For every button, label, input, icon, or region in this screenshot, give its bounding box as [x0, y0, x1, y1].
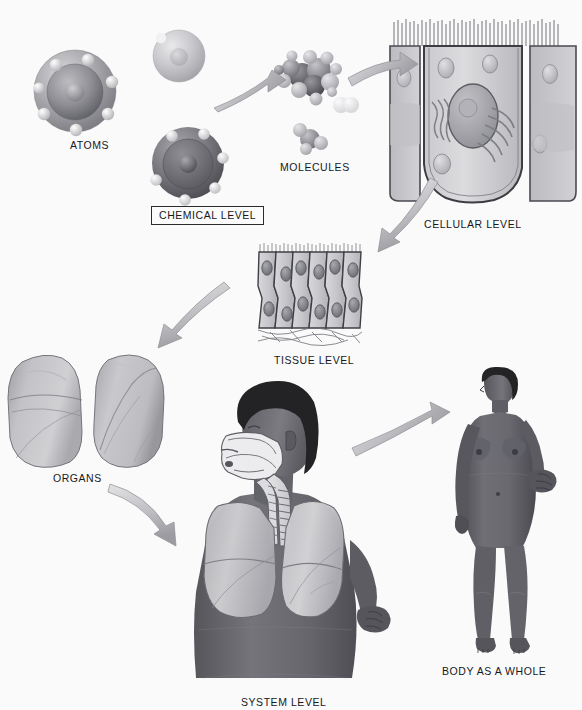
label-body-as-a-whole: BODY AS A WHOLE	[442, 665, 546, 677]
arrow-molecules-to-cellular	[348, 52, 418, 86]
arrow-organs-to-system	[108, 484, 176, 546]
label-cellular-level: CELLULAR LEVEL	[424, 218, 522, 230]
figure-canvas: ATOMS CHEMICAL LEVEL MOLECULES CELLULAR …	[0, 0, 582, 710]
label-organs: ORGANS	[53, 472, 102, 484]
label-tissue-level: TISSUE LEVEL	[274, 354, 354, 366]
label-system-level: SYSTEM LEVEL	[241, 696, 326, 708]
arrow-cellular-to-tissue	[378, 178, 438, 252]
label-molecules: MOLECULES	[280, 161, 350, 173]
label-chemical-level: CHEMICAL LEVEL	[151, 206, 264, 225]
label-atoms: ATOMS	[70, 139, 109, 151]
arrow-tissue-to-organs	[158, 282, 230, 348]
arrow-system-to-body	[352, 402, 450, 456]
arrow-atoms-to-molecules	[214, 70, 286, 112]
